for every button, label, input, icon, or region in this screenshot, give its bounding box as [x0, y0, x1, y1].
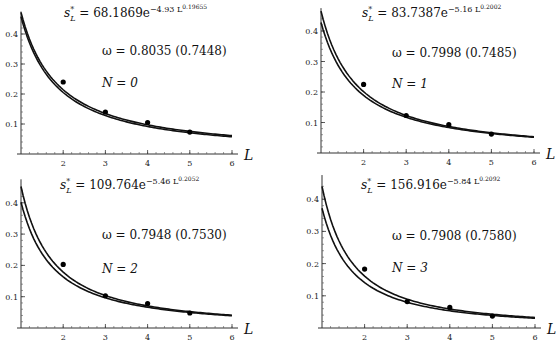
x-axis-label: L	[243, 321, 253, 337]
formula: s*L = 156.916e−5.84 L0.2092	[361, 175, 500, 195]
y-tick-label: 0.4	[305, 27, 318, 36]
data-point	[145, 120, 150, 125]
n-label: N = 2	[101, 262, 138, 276]
y-tick-label: 0.3	[306, 227, 319, 236]
x-tick-label: 2	[61, 159, 66, 168]
y-tick-label: 0.1	[5, 293, 18, 302]
x-tick-label: 4	[145, 333, 150, 342]
data-point	[187, 130, 192, 135]
y-tick-label: 0.3	[5, 60, 18, 69]
data-point	[61, 262, 66, 267]
x-axis-label: L	[545, 146, 555, 162]
x-tick-label: 5	[489, 158, 494, 167]
data-point	[446, 122, 451, 127]
x-tick-label: 2	[362, 333, 367, 342]
x-tick-label: 4	[446, 158, 451, 167]
data-point	[404, 113, 409, 118]
omega-label: ω = 0.8035 (0.7448)	[102, 44, 227, 58]
x-tick-label: 2	[361, 158, 366, 167]
y-tick-label: 0.4	[5, 30, 18, 39]
y-tick-label: 0.4	[5, 199, 18, 208]
figure: s*L = 68.1869e−4.93 L0.19655 ω = 0.8035 …	[0, 0, 560, 343]
panel-n3: s*L = 156.916e−5.84 L0.2092 ω = 0.7908 (…	[306, 175, 556, 342]
n-label: N = 0	[101, 76, 138, 90]
x-tick-label: 6	[229, 159, 234, 168]
data-point	[61, 79, 66, 84]
data-point	[145, 301, 150, 306]
x-tick-label: 3	[103, 333, 108, 342]
data-point	[405, 299, 410, 304]
panel-n2: s*L = 109.764e−5.46 L0.2052 ω = 0.7948 (…	[5, 175, 253, 342]
y-tick-label: 0.4	[306, 195, 319, 204]
n-label: N = 3	[391, 261, 428, 275]
x-tick-label: 3	[404, 158, 409, 167]
x-tick-label: 4	[447, 333, 452, 342]
x-axis-label: L	[243, 147, 253, 163]
formula: s*L = 83.7387e−5.16 L0.2002	[362, 3, 501, 23]
y-tick-label: 0.1	[5, 120, 18, 129]
lower-curve	[322, 208, 535, 318]
formula: s*L = 109.764e−5.46 L0.2052	[60, 175, 199, 195]
data-point	[362, 266, 367, 271]
x-tick-label: 3	[405, 333, 410, 342]
data-point	[490, 313, 495, 318]
y-tick-label: 0.2	[5, 90, 18, 99]
data-point	[103, 293, 108, 298]
panel-n0: s*L = 68.1869e−4.93 L0.19655 ω = 0.8035 …	[5, 3, 253, 168]
data-point	[489, 131, 494, 136]
formula: s*L = 68.1869e−4.93 L0.19655	[64, 3, 207, 23]
omega-label: ω = 0.7998 (0.7485)	[392, 46, 517, 60]
upper-curve	[21, 12, 232, 135]
upper-curve	[322, 186, 535, 317]
y-tick-label: 0.2	[5, 261, 18, 270]
x-tick-label: 6	[532, 333, 537, 342]
x-tick-label: 6	[531, 158, 536, 167]
y-tick-label: 0.1	[305, 119, 318, 128]
omega-label: ω = 0.7908 (0.7580)	[392, 229, 517, 243]
y-tick-label: 0.3	[305, 58, 318, 67]
x-tick-label: 5	[490, 333, 495, 342]
y-tick-label: 0.1	[306, 292, 319, 301]
x-tick-label: 5	[187, 159, 192, 168]
x-tick-label: 2	[61, 333, 66, 342]
panel-n1: s*L = 83.7387e−5.16 L0.2002 ω = 0.7998 (…	[305, 3, 555, 167]
x-tick-label: 3	[103, 159, 108, 168]
y-tick-label: 0.3	[5, 230, 18, 239]
y-tick-label: 0.2	[306, 260, 319, 269]
x-axis-label: L	[546, 321, 556, 337]
upper-curve	[321, 11, 534, 137]
upper-curve	[21, 187, 232, 316]
x-tick-label: 5	[187, 333, 192, 342]
y-tick-label: 0.2	[305, 88, 318, 97]
lower-curve	[21, 202, 232, 316]
data-point	[361, 82, 366, 87]
omega-label: ω = 0.7948 (0.7530)	[102, 228, 227, 242]
data-point	[103, 109, 108, 114]
data-point	[447, 305, 452, 310]
x-tick-label: 6	[229, 333, 234, 342]
x-tick-label: 4	[145, 159, 150, 168]
n-label: N = 1	[391, 77, 428, 91]
data-point	[187, 310, 192, 315]
